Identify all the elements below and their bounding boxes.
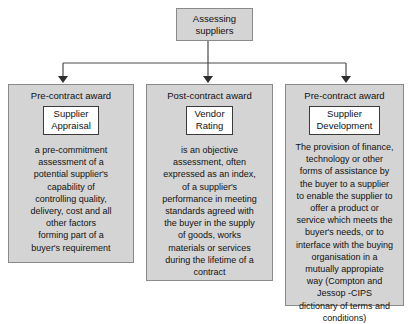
root-node-label: Assessing suppliers	[193, 13, 236, 36]
branch-node-supplier-development: Pre-contract award Supplier Development …	[285, 84, 404, 306]
branch-node-supplier-appraisal: Pre-contract award Supplier Appraisal a …	[8, 84, 134, 263]
root-node: Assessing suppliers	[176, 8, 253, 41]
branch-term-box: Vendor Rating	[186, 106, 232, 135]
branch-definition: a pre-commitment assessment of a potenti…	[31, 144, 112, 254]
branch-node-vendor-rating: Post-contract award Vendor Rating is an …	[146, 84, 273, 281]
arrowhead-0	[58, 76, 68, 83]
arrowhead-1	[203, 76, 213, 83]
branch-term-box: Supplier Development	[309, 106, 381, 135]
branch-definition: is an objective assessment, often expres…	[162, 144, 257, 278]
branch-phase-label: Pre-contract award	[31, 90, 111, 102]
branch-definition: The provision of finance, technology or …	[295, 141, 393, 324]
branch-phase-label: Pre-contract award	[304, 90, 384, 102]
arrowhead-2	[341, 76, 351, 83]
branch-term-box: Supplier Appraisal	[43, 106, 99, 135]
branch-phase-label: Post-contract award	[167, 90, 251, 102]
